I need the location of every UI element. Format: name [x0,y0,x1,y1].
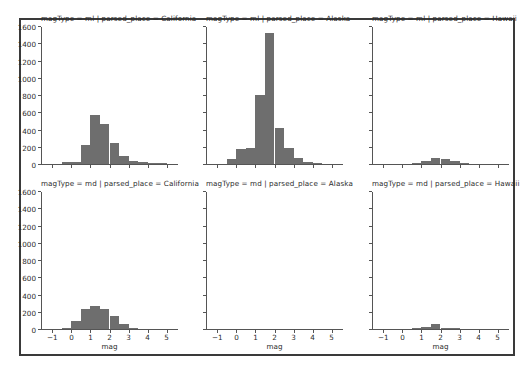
y-tick-label: 400 [22,126,36,135]
y-tick-label: 1400 [18,205,36,214]
y-tick [203,112,206,113]
histogram-bar [90,306,100,329]
y-tick-label: 200 [22,143,36,152]
y-tick [203,226,206,227]
y-tick [203,78,206,79]
x-tick-label: 4 [310,333,315,342]
y-tick [38,226,41,227]
y-axis-spine [372,192,373,330]
x-tick [479,165,480,168]
x-tick [148,165,149,168]
x-tick-label: 5 [164,333,169,342]
y-tick [38,243,41,244]
y-tick [369,112,372,113]
x-tick-label: −1 [378,333,389,342]
panel-title-ml-california: magType = ml | parsed_place = California [41,14,178,23]
x-tick-label: 2 [272,333,277,342]
panel-title-md-california: magType = md | parsed_place = California [41,179,178,188]
x-tick-label: 0 [69,333,74,342]
histogram-bar [119,156,129,164]
histogram-bar [236,149,246,164]
plot-area-ml-alaska [206,27,343,165]
x-tick [275,165,276,168]
histogram-bar [265,33,275,164]
y-tick [38,95,41,96]
facet-panel-md-california: magType = md | parsed_place = California… [41,192,178,330]
y-axis-spine [372,27,373,165]
y-tick-label: 600 [22,274,36,283]
x-tick-label: 4 [145,333,150,342]
y-tick [38,295,41,296]
x-tick-label: 1 [253,333,258,342]
y-tick [369,295,372,296]
y-tick [203,164,206,165]
y-tick [369,312,372,313]
x-tick-label: 2 [107,333,112,342]
panel-title-md-alaska: magType = md | parsed_place = Alaska [206,179,343,188]
x-tick [110,165,111,168]
x-tick [129,165,130,168]
y-tick [38,43,41,44]
y-tick [38,147,41,148]
histogram-bar [246,148,256,164]
y-tick [369,95,372,96]
y-tick [38,130,41,131]
x-tick-label: 3 [126,333,131,342]
y-tick [369,329,372,330]
x-tick [383,165,384,168]
y-tick [369,26,372,27]
x-tick [421,165,422,168]
histogram-bar [81,309,91,329]
x-tick [498,165,499,168]
y-tick [369,277,372,278]
y-tick-label: 200 [22,308,36,317]
histogram-bar [110,143,120,164]
plot-area-md-alaska: −1012345mag [206,192,343,330]
x-axis-label: mag [206,342,343,351]
y-tick [38,191,41,192]
facet-panel-ml-california: magType = ml | parsed_place = California… [41,27,178,165]
x-tick-label: 3 [291,333,296,342]
x-tick-label: 0 [234,333,239,342]
x-tick [313,165,314,168]
x-tick-label: 3 [457,333,462,342]
y-tick [38,164,41,165]
y-tick [203,95,206,96]
plot-area-ml-hawaii [372,27,509,165]
panel-title-ml-hawaii: magType = ml | parsed_place = Hawaii [372,14,509,23]
y-tick [203,43,206,44]
y-tick [203,191,206,192]
y-tick-label: 400 [22,291,36,300]
y-axis-spine [41,27,42,165]
histogram-bar [275,128,285,164]
x-axis-label: mag [372,342,509,351]
x-tick-label: 4 [476,333,481,342]
y-tick [369,191,372,192]
y-tick [369,243,372,244]
x-tick [217,165,218,168]
x-tick [167,165,168,168]
histogram-bar [71,321,81,329]
y-tick-label: 0 [31,161,36,170]
y-axis-spine [41,192,42,330]
x-tick-label: 1 [88,333,93,342]
y-tick [38,312,41,313]
x-tick [294,165,295,168]
facet-panel-ml-hawaii: magType = ml | parsed_place = Hawaii [372,27,509,165]
y-tick-label: 1600 [18,23,36,32]
histogram-bar [284,148,294,164]
y-tick [38,277,41,278]
y-tick [38,112,41,113]
x-tick [460,165,461,168]
y-tick [203,208,206,209]
y-tick [369,164,372,165]
y-tick [203,277,206,278]
y-tick [203,312,206,313]
histogram-bar [100,309,110,329]
y-tick [369,147,372,148]
x-tick [71,165,72,168]
y-tick [38,61,41,62]
plot-area-md-hawaii: −1012345mag [372,192,509,330]
y-tick-label: 1200 [18,222,36,231]
y-tick [203,243,206,244]
